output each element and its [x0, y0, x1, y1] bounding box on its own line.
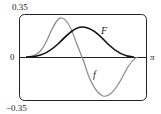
zero-label: 0 — [10, 53, 15, 62]
y-min-label: −0.35 — [6, 104, 27, 113]
y-max-label: 0.35 — [12, 3, 28, 12]
plot — [0, 0, 161, 114]
series-F-label: F — [101, 26, 107, 36]
x-max-pi-label: π — [150, 53, 155, 62]
series-f-label: f — [93, 70, 96, 80]
